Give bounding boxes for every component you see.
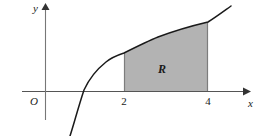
figure-canvas: y x O R 2 4 [0, 0, 270, 136]
y-axis-arrowhead [42, 3, 50, 10]
x-tick-label-4: 4 [205, 96, 211, 107]
x-tick-label-2: 2 [121, 96, 127, 107]
y-axis-label: y [33, 3, 38, 14]
x-axis-arrowhead [243, 88, 251, 96]
origin-label: O [30, 96, 38, 107]
shaded-region-R [124, 22, 208, 91]
figure-drawing [0, 0, 270, 136]
region-label-R: R [158, 63, 166, 75]
x-axis-label: x [248, 98, 253, 109]
